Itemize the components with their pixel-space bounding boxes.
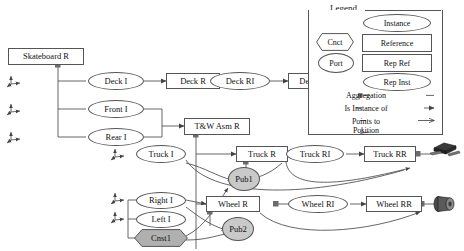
node-label: Truck R	[248, 150, 276, 159]
node-label: Left I	[151, 215, 170, 224]
node-label: Right I	[149, 196, 173, 205]
legend-instance: Instance	[363, 14, 431, 32]
coordinate-axis-icon	[110, 147, 126, 161]
node-label: Wheel RR	[376, 200, 412, 209]
coordinate-axis-icon	[110, 191, 126, 205]
legend-shape-label: Rep Inst	[384, 78, 411, 87]
legend-shape-label: Rep Ref	[384, 59, 410, 68]
node-label: Front I	[104, 105, 127, 114]
node-label: T&W Asm R	[194, 122, 239, 131]
node-label: Pub2	[229, 225, 246, 234]
node-truck-ri[interactable]: Truck RI	[286, 145, 344, 163]
node-truck-rr[interactable]: Truck RR	[364, 146, 416, 162]
node-right-i[interactable]: Right I	[136, 192, 186, 209]
node-pub1[interactable]: Pub1	[228, 167, 260, 191]
node-label: Truck RR	[373, 150, 406, 159]
coordinate-axis-icon	[6, 102, 22, 116]
legend-is-instance-of-label: Is Instance of	[344, 104, 387, 113]
legend-position-label: Position	[353, 126, 379, 135]
legend-cnct-label-wrap: Cnct	[316, 33, 354, 51]
legend-shape-label: Cnct	[327, 38, 342, 47]
node-label: Wheel RI	[302, 200, 335, 209]
coordinate-axis-icon	[6, 74, 22, 88]
node-label: Deck RI	[226, 77, 255, 86]
coordinate-axis-icon	[6, 130, 22, 144]
legend-rep-ref: Rep Ref	[362, 54, 432, 72]
node-deck-i[interactable]: Deck I	[88, 72, 144, 90]
node-wheel-ri[interactable]: Wheel RI	[288, 195, 348, 213]
node-label: Truck I	[149, 150, 174, 159]
node-truck-r[interactable]: Truck R	[236, 146, 288, 162]
node-tw-asm-r[interactable]: T&W Asm R	[184, 118, 250, 135]
node-deck-ri[interactable]: Deck RI	[210, 72, 270, 90]
node-truck-i[interactable]: Truck I	[136, 145, 186, 163]
node-label: Pub1	[235, 175, 252, 184]
node-label: Wheel R	[218, 200, 248, 209]
legend-aggregation-label: Aggregation	[346, 91, 386, 100]
legend-port: Port	[318, 53, 354, 73]
node-left-i[interactable]: Left I	[136, 211, 186, 228]
coordinate-axis-icon	[110, 210, 126, 224]
node-front-i[interactable]: Front I	[88, 100, 144, 118]
node-label: Cnst1	[151, 234, 171, 243]
node-label: Truck RI	[300, 150, 331, 159]
legend-shape-label: Instance	[384, 19, 411, 28]
legend-shape-label: Port	[329, 59, 342, 68]
node-label: Deck R	[180, 77, 206, 86]
node-label: Rear I	[105, 133, 126, 142]
node-wheel-r[interactable]: Wheel R	[206, 196, 260, 212]
legend-shape-label: Reference	[381, 39, 413, 48]
node-skateboard-r[interactable]: Skateboard R	[8, 48, 84, 65]
truck-3d-model[interactable]	[428, 140, 462, 162]
legend-points-to-label: Points to	[352, 117, 380, 126]
legend-box-top-edge	[365, 10, 441, 11]
node-wheel-rr[interactable]: Wheel RR	[366, 196, 422, 212]
node-pub2[interactable]: Pub2	[222, 217, 254, 241]
legend-reference: Reference	[362, 34, 432, 52]
wheel-3d-model[interactable]	[430, 192, 464, 216]
node-label: Deck I	[105, 77, 128, 86]
node-label: Skateboard R	[23, 52, 69, 61]
node-rear-i[interactable]: Rear I	[88, 128, 144, 146]
node-cnst1[interactable]: Cnst1	[134, 229, 188, 247]
